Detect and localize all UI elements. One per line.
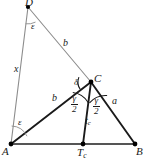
side-label-x: x bbox=[14, 64, 18, 74]
gamma-half-right-numerator: γ bbox=[93, 96, 100, 105]
side-label-a: a bbox=[112, 96, 117, 106]
point-A bbox=[9, 142, 14, 147]
angle-label-epsilon-A: ε bbox=[18, 118, 22, 127]
vertex-label-C: C bbox=[94, 73, 101, 84]
vertex-label-Tc-subscript: c bbox=[83, 151, 86, 160]
point-C bbox=[89, 80, 94, 85]
arc-delta-at-C bbox=[78, 77, 80, 89]
arc-epsilon-at-A bbox=[12, 126, 27, 136]
figure-canvas bbox=[0, 0, 145, 161]
geometry-figure: D C A B Tc x b b a ε ε δ γ 2 γ 2 tc bbox=[0, 0, 145, 161]
segment-C-Tc bbox=[83, 82, 91, 144]
angle-label-epsilon-D: ε bbox=[31, 22, 35, 31]
side-label-b-upper: b bbox=[63, 38, 68, 48]
segment-A-C bbox=[11, 82, 91, 144]
angle-label-delta: δ bbox=[74, 78, 78, 87]
gamma-half-left-numerator: γ bbox=[71, 94, 78, 103]
bisector-label-tc: tc bbox=[85, 116, 91, 127]
gamma-half-right-denominator: 2 bbox=[93, 107, 100, 116]
angle-label-gamma-half-left: γ 2 bbox=[71, 94, 78, 114]
vertex-label-D: D bbox=[25, 0, 33, 8]
vertex-label-B: B bbox=[136, 146, 143, 157]
side-label-b-lower: b bbox=[52, 93, 57, 103]
bisector-label-tc-subscript: c bbox=[88, 119, 91, 126]
segment-D-C bbox=[28, 7, 91, 82]
angle-label-gamma-half-right: γ 2 bbox=[93, 96, 100, 116]
vertex-label-Tc: Tc bbox=[77, 147, 86, 159]
vertex-label-A: A bbox=[2, 146, 9, 157]
gamma-half-left-denominator: 2 bbox=[71, 105, 78, 114]
